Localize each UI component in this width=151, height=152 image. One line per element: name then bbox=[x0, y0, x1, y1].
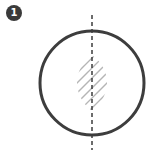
circle-symmetry-diagram bbox=[0, 0, 151, 152]
